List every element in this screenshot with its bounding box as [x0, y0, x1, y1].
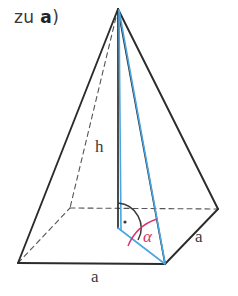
heading-prefix: zu: [14, 7, 40, 27]
label-base-edge-right-a: a: [195, 228, 203, 245]
pyramid-drawing: [0, 0, 238, 296]
edge-base-front: [18, 263, 165, 264]
aux-line-center-to-front-right: [118, 228, 165, 264]
label-height-h: h: [95, 138, 104, 155]
edge-apex-to-right: [118, 9, 218, 209]
hidden-edge-front-left-to-rear: [18, 208, 70, 263]
aux-line-apex-to-front-right: [119, 10, 165, 263]
hidden-edge-rear-to-right: [70, 208, 218, 209]
heading-suffix: ): [52, 7, 59, 27]
hidden-edge-apex-to-rear: [70, 9, 118, 208]
heading-bold-part: a: [40, 7, 52, 27]
right-angle-dot: [123, 220, 126, 223]
heading-text: zu a): [14, 9, 59, 26]
label-base-edge-front-a: a: [91, 268, 99, 285]
aux-line-apex-to-center: [119, 10, 121, 230]
figure-canvas: zu a) h a a α: [0, 0, 238, 296]
edge-base-front-right: [165, 209, 218, 264]
label-angle-alpha: α: [143, 228, 152, 245]
edge-apex-to-front-left: [18, 9, 118, 263]
